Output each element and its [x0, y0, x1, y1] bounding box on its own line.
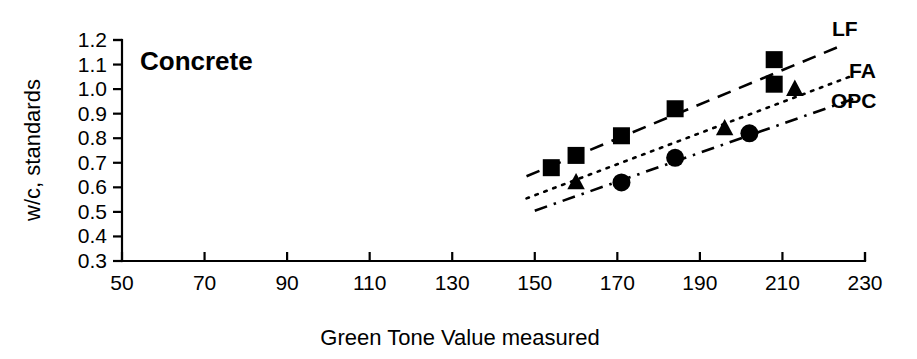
marker-filled-circle: [612, 173, 630, 191]
x-tick-label: 90: [275, 271, 298, 294]
marker-filled-square: [543, 159, 560, 176]
y-axis-title: w/c, standards: [20, 79, 45, 222]
y-tick-label: 1.1: [78, 53, 107, 76]
marker-filled-square: [667, 100, 684, 117]
x-tick-label: 210: [765, 271, 800, 294]
x-tick-label: 170: [600, 271, 635, 294]
x-tick-label: 110: [353, 271, 386, 294]
x-axis-tick-labels: 507090110130150170190210230: [110, 271, 882, 294]
y-axis-ticks: [113, 40, 122, 261]
legend: LFFAOPC: [831, 17, 877, 112]
x-tick-label: 70: [193, 271, 216, 294]
y-tick-label: 0.5: [78, 200, 107, 223]
marker-filled-square: [766, 51, 783, 68]
x-tick-label: 230: [847, 271, 882, 294]
marker-open-triangle: [786, 80, 803, 96]
series-fa: [567, 80, 803, 190]
x-tick-label: 150: [517, 271, 552, 294]
y-axis-tick-labels: 1.21.11.00.90.80.70.60.50.40.3: [78, 28, 108, 272]
chart-container: 1.21.11.00.90.80.70.60.50.40.3 507090110…: [0, 0, 917, 359]
x-axis-title: Green Tone Value measured: [320, 325, 599, 350]
y-tick-label: 0.3: [78, 249, 107, 272]
y-tick-label: 1.2: [78, 28, 107, 51]
y-tick-label: 0.9: [78, 102, 107, 125]
data-markers-group: [543, 51, 804, 191]
x-tick-label: 190: [682, 271, 717, 294]
marker-filled-square: [766, 76, 783, 93]
legend-label-lf: LF: [832, 17, 858, 40]
marker-filled-square: [613, 127, 630, 144]
legend-label-fa: FA: [849, 59, 876, 82]
y-tick-label: 0.6: [78, 175, 107, 198]
y-tick-label: 0.7: [78, 151, 107, 174]
x-axis-ticks: [122, 252, 865, 261]
marker-filled-circle: [666, 149, 684, 167]
scatter-chart: 1.21.11.00.90.80.70.60.50.40.3 507090110…: [0, 0, 917, 359]
marker-filled-square: [568, 147, 585, 164]
x-tick-label: 50: [110, 271, 133, 294]
x-tick-label: 130: [435, 271, 470, 294]
y-tick-label: 1.0: [78, 77, 107, 100]
marker-filled-circle: [740, 124, 758, 142]
plot-title: Concrete: [140, 46, 253, 76]
y-tick-label: 0.8: [78, 126, 107, 149]
legend-label-opc: OPC: [831, 89, 877, 112]
y-tick-label: 0.4: [78, 224, 108, 247]
series-lf: [543, 51, 783, 176]
